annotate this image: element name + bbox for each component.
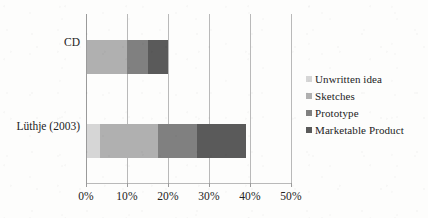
- bar-luthje-2003[interactable]: [86, 124, 246, 158]
- x-axis-line: [86, 183, 291, 184]
- bar-luthje-segment-prototype[interactable]: [158, 124, 197, 158]
- xtick-label-30: 30%: [189, 190, 229, 202]
- xtick-label-50: 50%: [271, 190, 311, 202]
- plot-area: [86, 14, 291, 183]
- legend-item-sketches[interactable]: Sketches: [306, 87, 428, 104]
- xtick-mark-40: [250, 183, 251, 187]
- legend: Unwritten idea Sketches Prototype Market…: [306, 70, 428, 138]
- xtick-label-20: 20%: [148, 190, 188, 202]
- bar-luthje-segment-marketable-product[interactable]: [197, 124, 246, 158]
- gridline-40pct: [250, 14, 251, 183]
- legend-swatch-icon-prototype: [306, 110, 312, 116]
- xtick-mark-50: [291, 183, 292, 187]
- legend-swatch-icon-sketches: [306, 93, 312, 99]
- xtick-label-0: 0%: [66, 190, 106, 202]
- xtick-label-40: 40%: [230, 190, 270, 202]
- ytick-label-luthje: Lüthje (2003): [0, 120, 80, 132]
- legend-label-sketches: Sketches: [315, 90, 355, 102]
- xtick-mark-30: [209, 183, 210, 187]
- legend-item-prototype[interactable]: Prototype: [306, 104, 428, 121]
- bar-luthje-segment-unwritten-idea[interactable]: [86, 124, 100, 158]
- xtick-label-10: 10%: [107, 190, 147, 202]
- bar-cd[interactable]: [86, 40, 168, 74]
- legend-swatch-icon-marketable-product: [306, 127, 312, 133]
- legend-swatch-icon-unwritten-idea: [306, 76, 312, 82]
- y-axis-line: [86, 14, 87, 183]
- legend-label-unwritten-idea: Unwritten idea: [315, 73, 382, 85]
- legend-label-prototype: Prototype: [315, 107, 359, 119]
- xtick-mark-20: [168, 183, 169, 187]
- ytick-label-cd: CD: [0, 36, 80, 48]
- xtick-mark-0: [86, 183, 87, 187]
- bar-cd-segment-sketches[interactable]: [86, 40, 127, 74]
- xtick-mark-10: [127, 183, 128, 187]
- bar-cd-segment-prototype[interactable]: [127, 40, 148, 74]
- gridline-50pct: [291, 14, 292, 183]
- legend-item-marketable-product[interactable]: Marketable Product: [306, 121, 428, 138]
- legend-item-unwritten-idea[interactable]: Unwritten idea: [306, 70, 428, 87]
- chart-figure: 0% 10% 20% 30% 40% 50% CD Lüthje (2003) …: [0, 0, 428, 218]
- bar-luthje-segment-sketches[interactable]: [100, 124, 157, 158]
- bar-cd-segment-marketable-product[interactable]: [148, 40, 169, 74]
- legend-label-marketable-product: Marketable Product: [315, 124, 404, 136]
